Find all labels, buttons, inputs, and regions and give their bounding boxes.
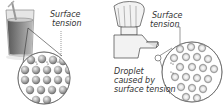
label-line: tension	[150, 20, 182, 29]
surface-tension-label-left: Surface tension	[50, 10, 81, 28]
label-line: Surface	[150, 11, 182, 20]
surface-tension-label-right: Surface tension	[150, 11, 182, 29]
droplet-label: Droplet caused by surface tension	[114, 67, 176, 94]
label-line: Surface	[50, 10, 81, 19]
surface-tension-diagram	[0, 0, 223, 105]
tap-illustration	[114, 2, 159, 59]
label-line: tension	[50, 19, 81, 28]
label-line: caused by	[114, 76, 176, 85]
label-line: surface tension	[114, 85, 176, 94]
label-line: Droplet	[114, 67, 176, 76]
molecule-closeup-left	[18, 52, 73, 104]
droplet	[155, 55, 161, 61]
glass-illustration	[6, 1, 34, 60]
